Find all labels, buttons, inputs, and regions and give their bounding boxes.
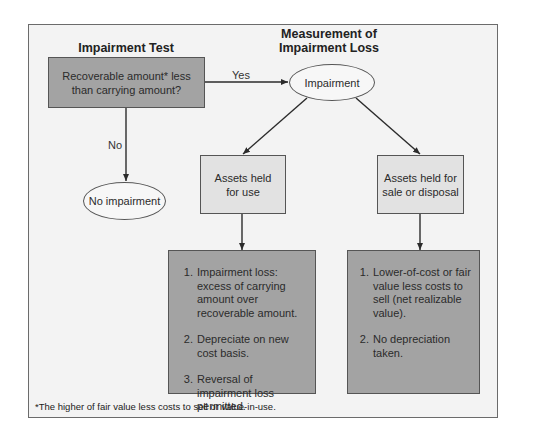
held-for-use-details: Impairment loss: excess of carrying amou… <box>168 250 316 394</box>
use-step-1: Impairment loss: excess of carrying amou… <box>196 266 307 320</box>
decision-line1: Recoverable amount* less <box>62 69 190 83</box>
held-for-use-line2: for use <box>226 185 260 199</box>
measurement-title-line2: Impairment Loss <box>270 41 388 55</box>
held-for-use-box: Assets held for use <box>200 155 286 214</box>
use-step-2: Depreciate on new cost basis. <box>196 333 307 360</box>
held-for-sale-box: Assets held for sale or disposal <box>377 155 464 214</box>
no-label: No <box>108 139 122 151</box>
held-for-sale-steps: Lower-of-cost or fair value less costs t… <box>351 266 471 360</box>
arrow-to-held-for-use <box>243 98 307 154</box>
decision-box: Recoverable amount* less than carrying a… <box>48 57 205 108</box>
impairment-node: Impairment <box>289 64 375 101</box>
yes-label: Yes <box>232 69 250 81</box>
no-impairment-node: No impairment <box>83 182 166 220</box>
sale-step-1: Lower-of-cost or fair value less costs t… <box>372 266 471 320</box>
held-for-sale-line1: Assets held for <box>384 171 457 185</box>
impairment-test-title: Impairment Test <box>60 41 192 55</box>
measurement-title: Measurement of Impairment Loss <box>270 27 388 55</box>
measurement-title-line1: Measurement of <box>270 27 388 41</box>
arrow-to-held-for-sale <box>356 98 420 154</box>
footnote: *The higher of fair value less costs to … <box>35 401 276 412</box>
held-for-use-line1: Assets held <box>215 171 272 185</box>
held-for-use-steps: Impairment loss: excess of carrying amou… <box>175 266 307 414</box>
decision-line2: than carrying amount? <box>72 83 181 97</box>
held-for-sale-details: Lower-of-cost or fair value less costs t… <box>347 250 480 394</box>
held-for-sale-line2: sale or disposal <box>382 185 458 199</box>
sale-step-2: No depreciation taken. <box>372 333 471 360</box>
